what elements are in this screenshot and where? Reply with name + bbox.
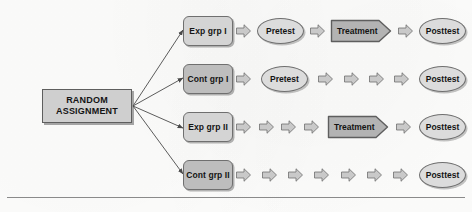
- node-treatment: Treatment: [327, 115, 389, 139]
- group-box-row-cont-1[interactable]: Cont grp I: [183, 64, 233, 94]
- group-box-row-exp-2[interactable]: Exp grp II: [183, 112, 233, 142]
- group-box-row-cont-2[interactable]: Cont grp II: [183, 160, 233, 190]
- flow-arrow: [318, 72, 333, 86]
- group-box-label: Exp grp II: [188, 123, 228, 132]
- node-oval: Posttest: [419, 18, 466, 44]
- flow-arrow: [398, 24, 413, 38]
- node-oval: Posttest: [419, 66, 466, 92]
- diagram-canvas: RANDOM ASSIGNMENT Exp grp IPretestTreatm…: [0, 0, 472, 212]
- node-treatment: Treatment: [330, 19, 392, 43]
- flow-arrow: [344, 72, 359, 86]
- flow-arrow: [304, 120, 319, 134]
- node-treatment-label: Treatment: [330, 19, 392, 43]
- connector-to-exp-grp-2: [133, 106, 183, 128]
- node-oval: Posttest: [419, 162, 466, 188]
- flow-arrow: [369, 72, 384, 86]
- random-assignment-box: RANDOM ASSIGNMENT: [42, 89, 132, 123]
- group-box-label: Exp grp I: [189, 27, 226, 36]
- node-oval-label: Posttest: [426, 27, 460, 36]
- flow-arrow: [259, 120, 274, 134]
- flow-arrow: [262, 168, 277, 182]
- node-oval-label: Pretest: [266, 27, 295, 36]
- connector-to-exp-grp-1: [133, 30, 183, 106]
- bottom-divider: [7, 197, 465, 198]
- node-oval: Pretest: [257, 18, 304, 44]
- flow-arrow: [288, 168, 303, 182]
- node-treatment-label: Treatment: [327, 115, 389, 139]
- random-assignment-line1: RANDOM: [66, 95, 108, 106]
- flow-arrow: [341, 168, 356, 182]
- connector-to-cont-grp-2: [133, 106, 183, 174]
- flow-arrow: [314, 168, 329, 182]
- group-box-label: Cont grp II: [186, 171, 230, 180]
- node-oval: Posttest: [419, 114, 466, 140]
- group-box-row-exp-1[interactable]: Exp grp I: [183, 16, 233, 46]
- flow-arrow: [236, 168, 251, 182]
- flow-arrow: [236, 120, 251, 134]
- flow-arrow: [367, 168, 382, 182]
- node-oval-label: Pretest: [270, 75, 299, 84]
- flow-arrow: [281, 120, 296, 134]
- flow-arrow: [394, 72, 409, 86]
- flow-arrow: [236, 72, 251, 86]
- flow-arrow: [393, 168, 408, 182]
- flow-arrow: [310, 24, 325, 38]
- node-oval-label: Posttest: [426, 75, 460, 84]
- flow-arrow: [396, 120, 411, 134]
- group-box-label: Cont grp I: [187, 75, 228, 84]
- node-oval-label: Posttest: [426, 123, 460, 132]
- node-oval-label: Posttest: [426, 171, 460, 180]
- flow-arrow: [236, 24, 251, 38]
- connector-to-cont-grp-1: [133, 78, 183, 106]
- random-assignment-line2: ASSIGNMENT: [56, 106, 118, 117]
- node-oval: Pretest: [261, 66, 308, 92]
